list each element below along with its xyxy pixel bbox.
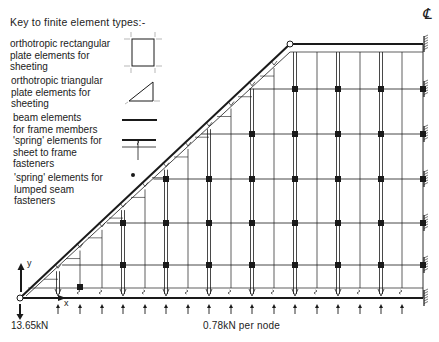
axis-y-label: y	[27, 258, 32, 268]
seam-fastener-dot	[335, 262, 341, 268]
spring-fastener-icon	[357, 290, 360, 294]
spring-fastener-icon	[77, 290, 80, 294]
seam-fastener-dot	[378, 220, 384, 226]
load-arrow-icon	[100, 304, 104, 308]
key-label-line: sheet to frame	[13, 147, 102, 159]
seam-fastener-dot	[206, 262, 212, 268]
load-arrow-icon	[336, 304, 340, 308]
seam-fastener-dot	[249, 262, 255, 268]
seam-fastener-dot	[335, 176, 341, 182]
load-arrow-icon	[250, 304, 254, 308]
spring-fastener-icon	[228, 290, 231, 294]
load-arrow-icon	[272, 304, 276, 308]
load-arrow-icon	[229, 304, 233, 308]
spring-fastener-icon	[271, 290, 274, 294]
spring-fastener-icon	[292, 289, 298, 296]
axis-x-label: x	[64, 298, 69, 308]
load-arrow-icon	[315, 304, 319, 308]
rectangle-plate-icon	[132, 39, 154, 66]
load-arrow-icon	[293, 304, 297, 308]
seam-fastener-dot	[206, 220, 212, 226]
nodal-load-label: 0.78kN per node	[203, 320, 280, 331]
seam-fastener-dot	[163, 176, 169, 182]
seam-fastener-dot	[292, 86, 298, 92]
y-axis-arrow-icon	[18, 263, 25, 270]
hinge-icon	[17, 295, 23, 301]
seam-fastener-dot	[163, 262, 169, 268]
seam-fastener-dot	[249, 220, 255, 226]
centerline-symbol: ℄	[422, 5, 432, 23]
seam-fastener-dot	[77, 284, 83, 290]
load-arrow-icon	[121, 304, 125, 308]
seam-fastener-dot	[378, 176, 384, 182]
key-item-beam: beam elements for frame members	[13, 112, 97, 135]
seam-fastener-dot	[335, 86, 341, 92]
load-arrow-icon	[358, 304, 362, 308]
key-title: Key to finite element types:-	[10, 16, 145, 28]
spring-fastener-icon	[399, 290, 402, 294]
key-item-sheet-fastener: 'spring' elements for sheet to frame fas…	[13, 135, 102, 170]
seam-fastener-dot	[335, 220, 341, 226]
reaction-label: 13.65kN	[11, 320, 48, 331]
key-label-line: for frame members	[13, 124, 97, 136]
key-label-line: plate elements for	[11, 87, 103, 99]
load-arrow-icon	[186, 304, 190, 308]
load-arrow-icon	[78, 304, 82, 308]
key-item-tri-plate: orthotropic triangular plate elements fo…	[11, 75, 103, 110]
spring-fastener-icon	[185, 290, 188, 294]
dot-icon	[131, 173, 135, 177]
key-label-line: fasteners	[13, 158, 102, 170]
key-label-line: orthotropic triangular	[11, 75, 103, 87]
spring-fastener-icon	[335, 289, 341, 296]
seam-fastener-dot	[292, 176, 298, 182]
seam-fastener-dot	[292, 131, 298, 137]
key-item-rect-plate: orthotropic rectangular plate elements f…	[10, 38, 110, 73]
key-label-line: 'spring' elements for	[13, 135, 102, 147]
load-arrow-icon	[400, 304, 404, 308]
triangle-plate-icon	[129, 82, 153, 101]
seam-fastener-dot	[249, 176, 255, 182]
seam-fastener-dot	[120, 262, 126, 268]
seam-fastener-dot	[292, 262, 298, 268]
key-label-line: 'spring' elements for	[14, 172, 103, 184]
key-label-line: beam elements	[13, 112, 97, 124]
hinge-icon	[287, 41, 293, 47]
seam-fastener-dot	[120, 220, 126, 226]
seam-fastener-dot	[292, 220, 298, 226]
key-item-seam-fastener: 'spring' elements for lumped seam fasten…	[14, 172, 103, 207]
load-arrow-icon	[207, 304, 211, 308]
spring-fastener-icon	[142, 290, 145, 294]
seam-fastener-dot	[163, 220, 169, 226]
key-label-line: fasteners	[14, 195, 103, 207]
spring-fastener-icon	[249, 289, 255, 296]
spring-fastener-icon	[206, 289, 212, 296]
key-label-line: plate elements for	[10, 50, 110, 62]
key-label-line: sheeting	[11, 98, 103, 110]
spring-fastener-icon	[163, 289, 169, 296]
load-arrow-icon	[143, 304, 147, 308]
key-label-line: lumped seam	[14, 184, 103, 196]
spring-fastener-icon	[55, 289, 61, 296]
plate-node-tick	[125, 102, 128, 104]
load-arrow-icon	[164, 304, 168, 308]
seam-fastener-dot	[335, 131, 341, 137]
seam-fastener-dot	[206, 176, 212, 182]
spring-fastener-icon	[120, 289, 126, 296]
spring-fastener-icon	[378, 289, 384, 296]
key-label-line: orthotropic rectangular	[10, 38, 110, 50]
seam-fastener-dot	[378, 131, 384, 137]
spring-fastener-icon	[99, 290, 102, 294]
key-label-line: sheeting	[10, 61, 110, 73]
load-arrow-icon	[379, 304, 383, 308]
load-arrow-icon	[56, 304, 60, 308]
seam-fastener-dot	[378, 262, 384, 268]
seam-fastener-dot	[249, 131, 255, 137]
spring-fastener-icon	[314, 290, 317, 294]
seam-fastener-dot	[378, 86, 384, 92]
